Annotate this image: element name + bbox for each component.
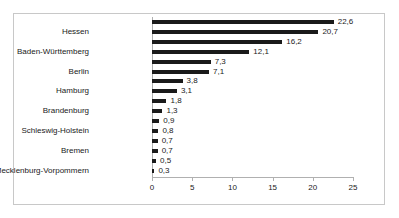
bar-row: 16,2 — [14, 37, 386, 47]
bar-value-label: 3,8 — [187, 76, 198, 86]
bar — [152, 159, 156, 163]
bar-value-label: 1,3 — [166, 106, 177, 116]
x-tick — [353, 177, 354, 181]
bar — [152, 89, 177, 93]
bar-value-label: 7,1 — [213, 67, 224, 77]
category-label: Hamburg — [56, 86, 89, 96]
bar-value-label: 0,7 — [162, 136, 173, 146]
category-label: Bremen — [61, 146, 89, 156]
x-axis-line — [152, 177, 354, 178]
bar-row: Baden-Württemberg12,1 — [14, 47, 386, 57]
bar — [152, 109, 162, 113]
bar — [152, 169, 154, 173]
bar-value-label: 12,1 — [253, 47, 269, 57]
bar-row: Brandenburg1,3 — [14, 106, 386, 116]
plot-area: 0510152025 22,6Hessen20,716,2Baden-Württ… — [14, 14, 384, 204]
bar-row: 22,6 — [14, 17, 386, 27]
x-tick-label: 5 — [190, 183, 194, 192]
bar-value-label: 0,8 — [162, 126, 173, 136]
bar — [152, 139, 158, 143]
bar-value-label: 16,2 — [286, 37, 302, 47]
category-label: Hessen — [62, 27, 89, 37]
category-label: Mecklenburg-Vorpommern — [0, 166, 89, 176]
bar — [152, 70, 209, 74]
bar-value-label: 3,1 — [181, 86, 192, 96]
x-tick-label: 15 — [268, 183, 277, 192]
bar-value-label: 0,3 — [158, 166, 169, 176]
bar-row: 3,8 — [14, 76, 386, 86]
category-label: Berlin — [69, 67, 89, 77]
bar-value-label: 0,7 — [162, 146, 173, 156]
x-tick — [313, 177, 314, 181]
bar — [152, 79, 183, 83]
bar-value-label: 7,3 — [215, 57, 226, 67]
x-tick-label: 20 — [308, 183, 317, 192]
bar — [152, 119, 159, 123]
bar — [152, 99, 166, 103]
bar-row: Bremen0,7 — [14, 146, 386, 156]
category-label: Baden-Württemberg — [17, 47, 89, 57]
bar-row: 0,7 — [14, 136, 386, 146]
x-tick-label: 0 — [150, 183, 154, 192]
category-label: Brandenburg — [43, 106, 89, 116]
x-tick — [152, 177, 153, 181]
bar-row: Berlin7,1 — [14, 67, 386, 77]
bar-value-label: 20,7 — [322, 27, 338, 37]
bar-row: Schleswig-Holstein0,8 — [14, 126, 386, 136]
bar — [152, 50, 249, 54]
bar — [152, 149, 158, 153]
bar-row: 1,8 — [14, 96, 386, 106]
bar-row: 7,3 — [14, 57, 386, 67]
x-tick-label: 25 — [349, 183, 358, 192]
bar-row: 0,5 — [14, 156, 386, 166]
bar — [152, 129, 158, 133]
bar — [152, 30, 318, 34]
bar — [152, 20, 334, 24]
bar — [152, 60, 211, 64]
x-tick — [273, 177, 274, 181]
bar-row: Hamburg3,1 — [14, 86, 386, 96]
bar — [152, 40, 282, 44]
bar-row: 0,9 — [14, 116, 386, 126]
bar-row: Mecklenburg-Vorpommern0,3 — [14, 166, 386, 176]
bar-row: Hessen20,7 — [14, 27, 386, 37]
bar-value-label: 0,9 — [163, 116, 174, 126]
bar-value-label: 1,8 — [170, 96, 181, 106]
x-tick — [192, 177, 193, 181]
bar-value-label: 0,5 — [160, 156, 171, 166]
category-label: Schleswig-Holstein — [21, 126, 89, 136]
x-tick-label: 10 — [228, 183, 237, 192]
x-tick — [232, 177, 233, 181]
chart-frame: 0510152025 22,6Hessen20,716,2Baden-Württ… — [13, 13, 385, 205]
bar-value-label: 22,6 — [338, 17, 354, 27]
